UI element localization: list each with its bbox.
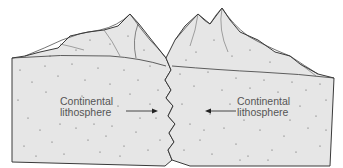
left-label-line2: lithosphere (60, 107, 113, 118)
left-continental-block (12, 14, 175, 166)
right-continental-block (165, 8, 334, 166)
left-lithosphere-label: Continental lithosphere (60, 96, 113, 118)
collision-diagram: Continental lithosphere Continental lith… (0, 0, 343, 168)
right-label-line2: lithosphere (237, 107, 290, 118)
right-lithosphere-label: Continental lithosphere (237, 96, 290, 118)
crust-block-illustration (0, 0, 343, 168)
